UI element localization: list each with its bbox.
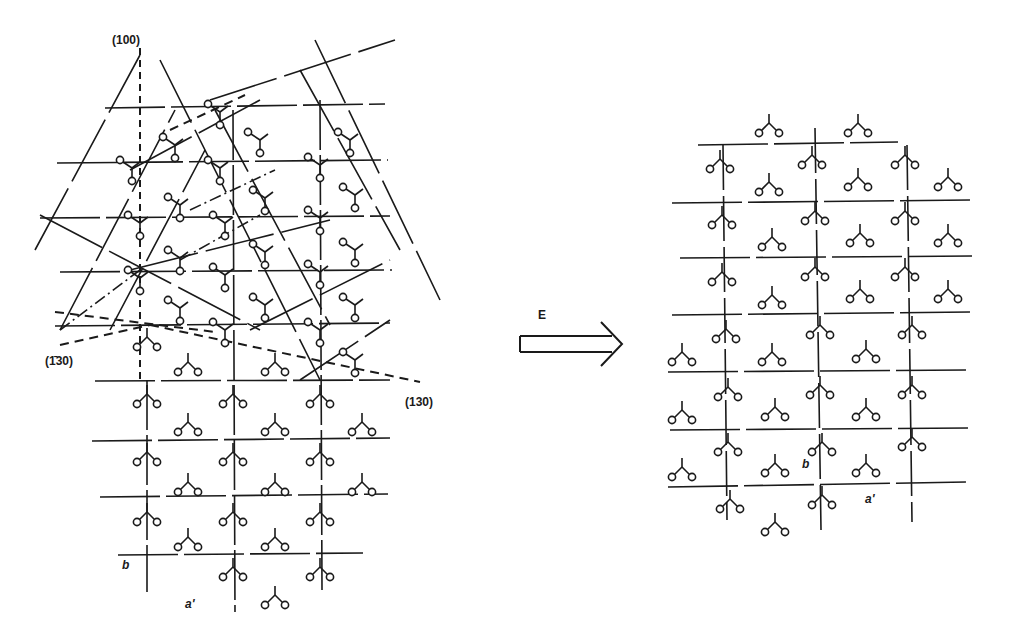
molecule-icon [304, 153, 328, 181]
lattice-line [118, 553, 363, 555]
oblique-domain-lines [35, 40, 440, 380]
right-axis-b-label: b [802, 457, 809, 471]
molecule-icon [339, 293, 363, 321]
molecule-icon [124, 211, 148, 239]
lattice-line [60, 270, 392, 272]
molecule-icon [261, 353, 288, 376]
molecule-icon [852, 398, 879, 421]
lattice-line [698, 142, 898, 145]
lattice-line [233, 110, 235, 612]
molecule-icon [219, 558, 246, 581]
lattice-line [670, 428, 970, 430]
vertical-lattice-lines [147, 100, 322, 612]
molecule-icon [806, 376, 833, 399]
molecule-icon [306, 503, 333, 526]
arrow-icon [520, 322, 622, 366]
molecule-icon [846, 224, 873, 247]
molecule-icon [306, 443, 333, 466]
molecule-icon [261, 586, 288, 609]
molecule-icon [133, 328, 160, 351]
molecule-icon [808, 486, 835, 509]
molecule-icon [174, 413, 201, 436]
vertical-lattice-lines [723, 128, 912, 530]
molecule-icon [668, 343, 695, 366]
lattice-line [60, 110, 175, 330]
molecule-icon [339, 238, 363, 266]
left-axis-a-label: a' [185, 597, 195, 611]
molecule-icon [761, 398, 788, 421]
molecule-icon [668, 401, 695, 424]
molecule-icon [244, 128, 268, 156]
molecule-icon [249, 293, 273, 321]
plane-130-dashed-lines [55, 95, 420, 382]
plane-100-label: (100) [112, 33, 140, 47]
molecule-icon [844, 168, 871, 191]
molecule-icon [706, 150, 733, 173]
molecule-icon [261, 473, 288, 496]
molecule-icon [758, 343, 785, 366]
lattice-line [130, 220, 330, 270]
molecule-icon [761, 513, 788, 536]
right-axis-a-label: a' [865, 492, 875, 506]
molecule-icon [891, 146, 918, 169]
molecule-icon [339, 348, 363, 376]
molecule-icon [164, 296, 188, 324]
molecule-icon [708, 206, 735, 229]
molecule-icon [339, 183, 363, 211]
molecule-icon [116, 156, 140, 184]
lattice-line [210, 40, 395, 100]
molecules-interstitial [174, 353, 375, 609]
molecule-icon [668, 458, 695, 481]
molecule-icon [798, 146, 825, 169]
molecule-icon [219, 443, 246, 466]
molecule-icon [174, 528, 201, 551]
molecule-icon [898, 316, 925, 339]
molecule-icon [801, 258, 828, 281]
lattice-line [60, 325, 150, 345]
field-e-label: E [538, 308, 546, 322]
lattice-line [907, 145, 912, 522]
molecule-icon [209, 263, 233, 291]
lattice-line [672, 200, 972, 203]
molecule-icon [808, 433, 835, 456]
molecule-icon [844, 114, 871, 137]
lattice-line [60, 270, 140, 330]
molecule-icon [174, 353, 201, 376]
molecule-icon [934, 168, 961, 191]
lattice-line [130, 100, 260, 170]
molecule-icon [334, 128, 358, 156]
molecule-icon [306, 558, 333, 581]
plane-1bar30-label: (1̄30) [45, 354, 73, 368]
molecule-icon [755, 114, 782, 137]
molecule-icon [898, 428, 925, 451]
molecule-icon [891, 258, 918, 281]
molecules-interstitial [668, 114, 961, 536]
lattice-diagram [0, 0, 1012, 633]
lattice-line [672, 312, 970, 315]
molecule-icon [714, 433, 741, 456]
molecule-icon [304, 318, 328, 346]
initial-lattice-panel [35, 40, 440, 612]
molecule-icon [249, 240, 273, 268]
molecule-icon [891, 202, 918, 225]
molecule-icon [306, 385, 333, 408]
molecule-icon [716, 490, 743, 513]
molecule-icon [304, 206, 328, 234]
molecule-icon [852, 340, 879, 363]
molecule-icon [219, 385, 246, 408]
molecule-icon [261, 413, 288, 436]
molecule-icon [758, 228, 785, 251]
molecule-icon [755, 173, 782, 196]
molecule-icon [806, 316, 833, 339]
molecule-icon [898, 376, 925, 399]
molecule-icon [261, 528, 288, 551]
field-aligned-lattice-panel [668, 114, 972, 536]
lattice-line [55, 323, 390, 326]
lattice-line [92, 438, 390, 441]
lattice-line [100, 494, 388, 497]
molecule-icon [712, 320, 739, 343]
molecule-icon [758, 286, 785, 309]
molecule-icon [219, 503, 246, 526]
lattice-line [110, 150, 205, 330]
molecule-icon [348, 473, 375, 496]
